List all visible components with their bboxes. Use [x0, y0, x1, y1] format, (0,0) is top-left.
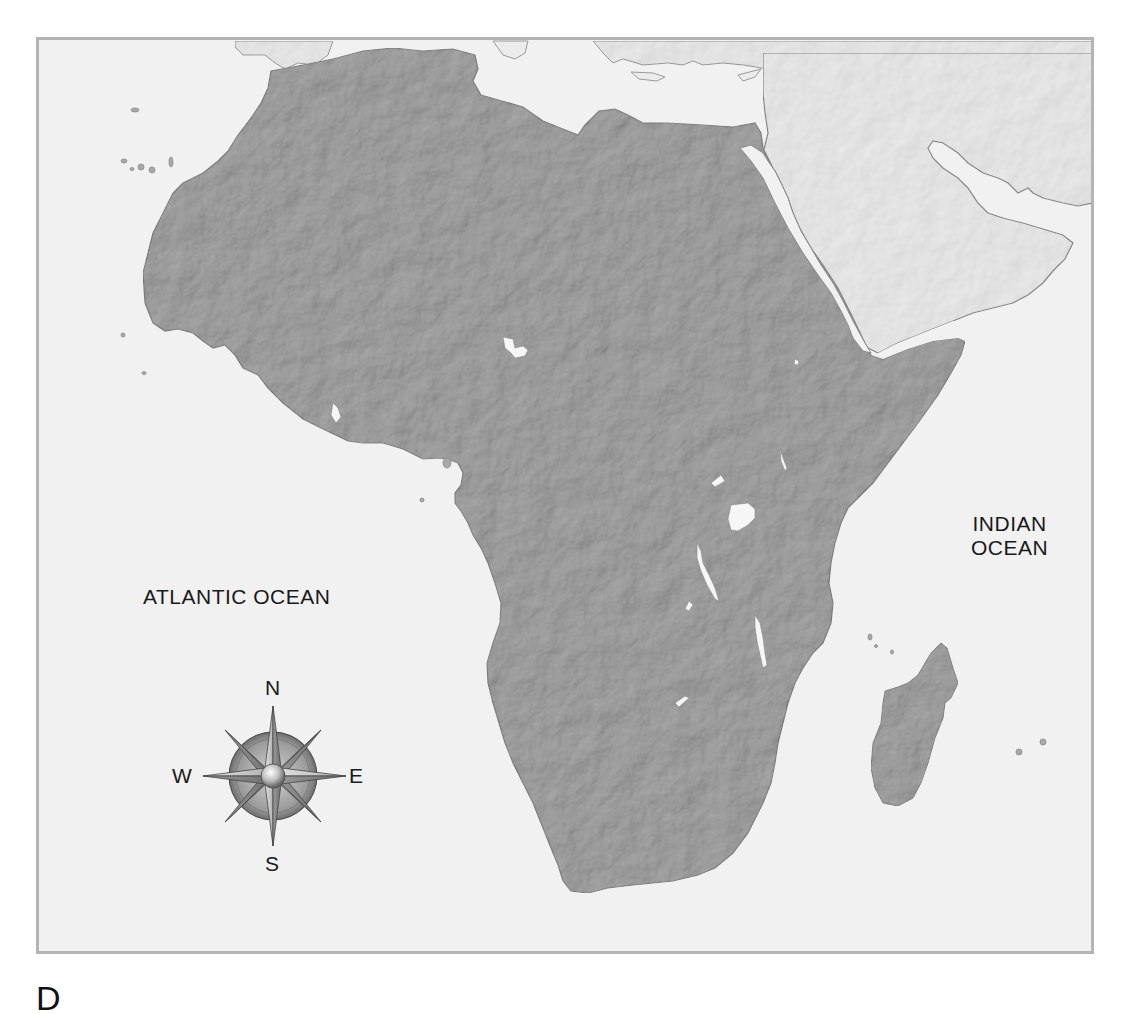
compass-rose: N S W E [163, 673, 383, 883]
atlantic-ocean-label: ATLANTIC OCEAN [143, 585, 330, 609]
indian-ocean-label-line2: OCEAN [971, 536, 1048, 560]
map-frame: ATLANTIC OCEAN INDIAN OCEAN [36, 37, 1094, 954]
indian-ocean-label: INDIAN OCEAN [971, 512, 1048, 560]
compass-north-label: N [265, 677, 280, 699]
compass-south-label: S [265, 853, 279, 875]
indian-ocean-label-line1: INDIAN [971, 512, 1048, 536]
compass-east-label: E [349, 765, 363, 787]
compass-west-label: W [172, 765, 192, 787]
caption-text-cut-off: D [36, 978, 61, 1014]
